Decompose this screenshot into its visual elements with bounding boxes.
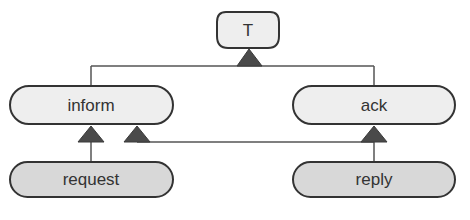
triangle-arrow-icon [361, 126, 387, 142]
type-hierarchy-diagram: T inform ack request reply [0, 0, 470, 220]
node-reply-label: reply [356, 170, 393, 189]
node-inform-label: inform [67, 96, 114, 115]
node-request-label: request [63, 170, 120, 189]
triangle-arrow-icon [124, 126, 150, 142]
node-inform[interactable]: inform [10, 86, 173, 124]
triangle-arrow-icon [237, 49, 262, 66]
node-ack-label: ack [361, 96, 388, 115]
node-ack[interactable]: ack [293, 86, 455, 124]
triangle-arrow-icon [78, 126, 104, 142]
node-reply[interactable]: reply [293, 162, 455, 197]
node-root[interactable]: T [217, 12, 279, 48]
node-request[interactable]: request [10, 162, 173, 197]
node-root-label: T [243, 21, 253, 40]
